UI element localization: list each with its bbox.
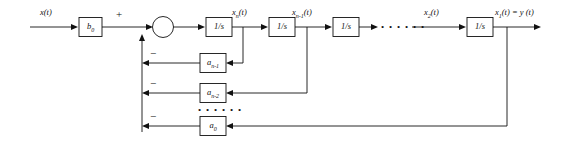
summing-junction-plus-sign: + (116, 9, 122, 20)
block-diagram-canvas: x(t) b0 + 1/s 1/s 1/s 1/s xn(t) xn-1(t) … (0, 0, 561, 150)
integrator-block-1-label: 1/s (206, 22, 232, 31)
input-signal-label: x(t) (40, 8, 52, 17)
output-signal-label: x1(t) = y (t) (495, 8, 534, 19)
arrowhead-into-int4 (459, 24, 466, 30)
arrowhead-a0-to-bus (142, 123, 149, 129)
feedback-gain-block-an-1-label: an-1 (200, 58, 226, 69)
arrowhead-before-ellipsis (371, 24, 378, 30)
arrowhead-into-int2 (261, 24, 268, 30)
node-label-xn: xn(t) (232, 8, 247, 19)
arrowhead-an2-to-bus (142, 90, 149, 96)
arrowhead-into-a0 (226, 123, 233, 129)
chain-ellipsis: • • • • • • (381, 22, 425, 32)
arrowhead-output (534, 24, 541, 30)
gain-block-b0-label: b0 (79, 22, 102, 33)
arrowhead-into-an2 (226, 90, 233, 96)
arrowhead-into-sum (146, 24, 153, 30)
feedback-ellipsis: • • • • • • (198, 105, 242, 115)
integrator-block-2-label: 1/s (269, 22, 295, 31)
feedback-gain-block-an-2-label: an-2 (200, 88, 226, 99)
feedback-gain-block-a0-label: a0 (200, 121, 226, 132)
arrowhead-into-an1 (226, 60, 233, 66)
arrowhead-into-int3 (325, 24, 332, 30)
feedback-minus-sign-2: − (150, 78, 156, 89)
feedback-minus-sign-3: − (150, 111, 156, 122)
arrowhead-into-b0 (71, 24, 78, 30)
integrator-block-3-label: 1/s (333, 22, 359, 31)
arrowhead-feedback-into-sum (139, 34, 145, 41)
summing-junction (153, 17, 174, 38)
node-label-xn-1: xn-1(t) (292, 8, 312, 19)
arrowhead-into-int1 (198, 24, 205, 30)
node-label-x2: x2(t) (424, 8, 439, 19)
arrowhead-an1-to-bus (142, 60, 149, 66)
integrator-block-4-label: 1/s (467, 22, 493, 31)
feedback-minus-sign-1: − (150, 48, 156, 59)
